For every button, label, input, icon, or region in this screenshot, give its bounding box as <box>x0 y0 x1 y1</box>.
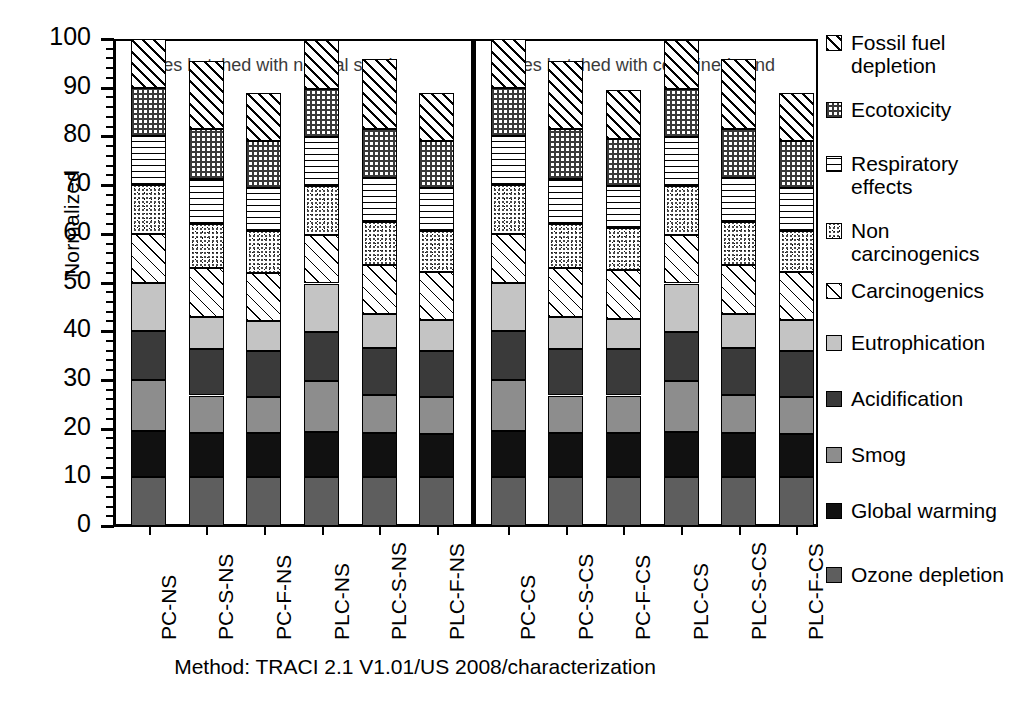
x-tick-label-plc-cs: PLC-CS <box>689 563 713 640</box>
bar-segment-acid <box>606 349 641 395</box>
bar-segment-noncarc <box>491 185 526 234</box>
bar-segment-smog <box>419 397 454 434</box>
bar-segment-acid <box>491 331 526 380</box>
bar-segment-ozone <box>664 477 699 526</box>
bar-segment-resp <box>779 188 814 231</box>
bar-plc-f-ns[interactable] <box>419 93 454 526</box>
bar-segment-fossil <box>304 40 339 89</box>
bar-segment-acid <box>246 351 281 397</box>
x-tick-label-pc-f-cs: PC-F-CS <box>631 555 655 640</box>
bar-pc-f-ns[interactable] <box>246 93 281 526</box>
bar-segment-resp <box>304 137 339 186</box>
y-tick-label: 40 <box>33 316 91 341</box>
legend-swatch-noncarc-icon <box>826 223 842 239</box>
bar-segment-eco <box>779 141 814 188</box>
bar-segment-gw <box>304 432 339 478</box>
bar-segment-eco <box>664 89 699 138</box>
legend-item-fossil[interactable]: Fossil fuel depletion <box>826 32 1013 77</box>
bar-segment-ozone <box>779 477 814 526</box>
bar-segment-eutro <box>721 314 756 348</box>
legend-item-eco[interactable]: Ecotoxicity <box>826 99 951 122</box>
bar-plc-f-cs[interactable] <box>779 93 814 526</box>
y-tick-label: 100 <box>33 24 91 49</box>
x-tick-label-plc-s-ns: PLC-S-NS <box>387 542 411 640</box>
x-tick-label-pc-f-ns: PC-F-NS <box>272 555 296 640</box>
bar-segment-acid <box>721 348 756 394</box>
bar-pc-cs[interactable] <box>491 39 526 526</box>
bar-segment-gw <box>548 433 583 477</box>
bar-pc-s-ns[interactable] <box>189 61 224 526</box>
legend-label: Carcinogenics <box>851 280 984 303</box>
x-tick-label-plc-f-cs: PLC-F-CS <box>804 543 828 640</box>
bar-pc-s-cs[interactable] <box>548 61 583 526</box>
bar-segment-resp <box>362 178 397 222</box>
bar-segment-smog <box>362 395 397 434</box>
bar-segment-smog <box>606 396 641 433</box>
bar-segment-gw <box>779 434 814 477</box>
bar-segment-acid <box>362 348 397 394</box>
chart-figure: Normalized 1009080706050403020100 Mixes … <box>0 0 1013 703</box>
legend-swatch-carc-icon <box>826 283 842 299</box>
bar-pc-ns[interactable] <box>131 39 166 526</box>
bar-segment-eutro <box>548 317 583 349</box>
bar-segment-carc <box>779 272 814 320</box>
bar-segment-noncarc <box>189 224 224 268</box>
bar-segment-fossil <box>246 93 281 142</box>
bar-segment-eutro <box>779 320 814 351</box>
bar-segment-gw <box>419 434 454 477</box>
bar-segment-ozone <box>246 477 281 526</box>
legend-item-ozone[interactable]: Ozone depletion <box>826 564 1004 587</box>
bar-segment-resp <box>131 136 166 185</box>
y-tick-label: 80 <box>33 121 91 146</box>
bar-segment-eutro <box>189 317 224 349</box>
bar-segment-carc <box>721 265 756 314</box>
x-tick-label-pc-cs: PC-CS <box>516 575 540 640</box>
legend-item-noncarc[interactable]: Non carcinogenics <box>826 220 1013 265</box>
legend-label: Fossil fuel depletion <box>851 32 1013 77</box>
y-tick-label: 0 <box>33 511 91 536</box>
legend-item-gw[interactable]: Global warming <box>826 500 997 523</box>
bar-segment-eco <box>246 141 281 188</box>
legend-item-carc[interactable]: Carcinogenics <box>826 280 984 303</box>
y-tick-label: 20 <box>33 414 91 439</box>
legend-item-resp[interactable]: Respiratory effects <box>826 153 1013 198</box>
x-tick-label-plc-f-ns: PLC-F-NS <box>445 543 469 640</box>
bar-segment-eutro <box>664 284 699 333</box>
bar-segment-fossil <box>779 93 814 142</box>
bar-segment-acid <box>131 331 166 380</box>
legend-label: Global warming <box>851 500 997 523</box>
bar-segment-fossil <box>419 93 454 142</box>
legend-item-eutro[interactable]: Eutrophication <box>826 332 985 355</box>
legend-label: Ecotoxicity <box>851 99 951 122</box>
legend-label: Respiratory effects <box>851 153 1013 198</box>
legend-label: Smog <box>851 444 906 467</box>
bar-pc-f-cs[interactable] <box>606 90 641 526</box>
bar-plc-ns[interactable] <box>304 40 339 526</box>
x-tick-label-pc-s-cs: PC-S-CS <box>574 554 598 640</box>
bar-segment-gw <box>362 433 397 477</box>
bar-segment-carc <box>304 235 339 284</box>
bar-plc-cs[interactable] <box>664 40 699 526</box>
bar-plc-s-ns[interactable] <box>362 58 397 526</box>
bar-segment-resp <box>721 178 756 222</box>
legend-item-acid[interactable]: Acidification <box>826 388 963 411</box>
bar-plc-s-cs[interactable] <box>721 58 756 526</box>
bar-segment-fossil <box>131 39 166 88</box>
legend-item-smog[interactable]: Smog <box>826 444 906 467</box>
bar-segment-fossil <box>189 61 224 129</box>
bar-segment-eutro <box>246 321 281 351</box>
bar-segment-ozone <box>189 477 224 526</box>
legend-swatch-eutro-icon <box>826 335 842 351</box>
bar-segment-carc <box>606 270 641 318</box>
legend-swatch-resp-icon <box>826 156 842 172</box>
bar-segment-fossil <box>491 39 526 88</box>
bar-segment-noncarc <box>548 224 583 268</box>
x-tick-label-pc-ns: PC-NS <box>157 575 181 640</box>
bar-segment-eco <box>606 139 641 186</box>
bar-segment-resp <box>246 188 281 231</box>
bar-segment-carc <box>419 272 454 320</box>
bar-segment-carc <box>548 268 583 317</box>
bar-segment-resp <box>189 179 224 224</box>
bar-segment-noncarc <box>606 228 641 270</box>
bar-segment-carc <box>131 234 166 283</box>
